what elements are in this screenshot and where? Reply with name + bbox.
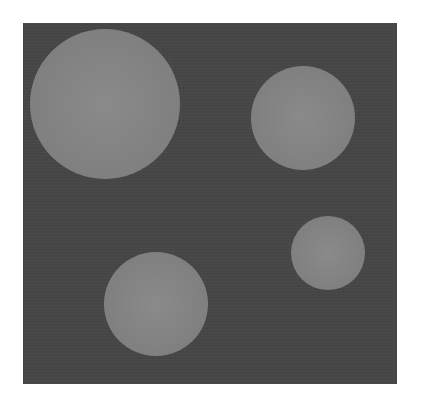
gray-circle-3 xyxy=(291,216,365,290)
gray-circle-4 xyxy=(104,252,208,356)
gray-circle-1 xyxy=(30,29,180,179)
gray-circle-2 xyxy=(251,66,355,170)
